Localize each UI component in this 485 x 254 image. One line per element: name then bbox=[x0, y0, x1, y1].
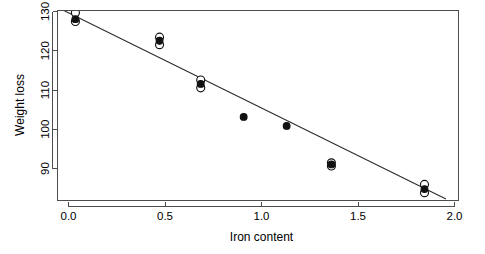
x-tick-label-1.5: 1.5 bbox=[350, 210, 366, 222]
x-axis-title: Iron content bbox=[230, 230, 294, 244]
x-tick-label-0.5: 0.5 bbox=[157, 210, 173, 222]
y-tick-label-100: 100 bbox=[39, 120, 51, 139]
y-tick-label-120: 120 bbox=[39, 41, 51, 60]
plot-frame-box bbox=[58, 11, 459, 201]
plot-region bbox=[58, 7, 446, 199]
series-fitted-points bbox=[72, 16, 428, 193]
x-tick-label-2.0: 2.0 bbox=[447, 210, 463, 222]
x-axis: 0.0 0.5 1.0 1.5 2.0 bbox=[61, 202, 463, 223]
data-point-fitted-1 bbox=[156, 37, 163, 44]
data-point-fitted-5 bbox=[328, 161, 335, 168]
data-point-fitted-6 bbox=[421, 186, 428, 193]
data-point-fitted-3 bbox=[240, 113, 247, 120]
data-point-fitted-0 bbox=[72, 16, 79, 23]
y-axis-title: Weight loss bbox=[13, 74, 27, 136]
data-point-fitted-2 bbox=[197, 81, 204, 88]
scatter-plot-canvas: 130 120 110 100 90 0.0 0.5 1.0 1.5 2.0 I… bbox=[0, 0, 485, 254]
chart-figure: 130 120 110 100 90 0.0 0.5 1.0 1.5 2.0 I… bbox=[0, 0, 485, 254]
x-tick-label-0.0: 0.0 bbox=[61, 210, 77, 222]
y-tick-label-110: 110 bbox=[39, 81, 51, 99]
x-tick-label-1.0: 1.0 bbox=[254, 210, 270, 222]
y-axis: 130 120 110 100 90 bbox=[39, 2, 57, 175]
y-tick-label-130: 130 bbox=[39, 2, 51, 21]
data-point-fitted-4 bbox=[283, 123, 290, 130]
y-tick-label-90: 90 bbox=[39, 162, 51, 175]
regression-line bbox=[58, 7, 446, 199]
